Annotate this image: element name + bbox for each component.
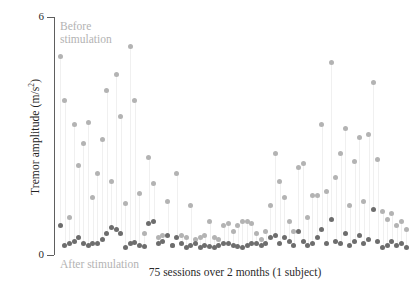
stem-connector	[378, 160, 379, 241]
stem-connector	[60, 57, 61, 226]
data-point-before	[277, 179, 282, 184]
data-point-before	[109, 179, 114, 184]
data-point-before	[76, 163, 81, 168]
data-point-before	[95, 171, 100, 176]
data-point-after	[366, 237, 371, 242]
data-point-before	[361, 199, 366, 204]
stem-connector	[312, 196, 313, 244]
data-point-after	[277, 241, 282, 246]
y-tick-mark-bottom	[47, 255, 54, 256]
stem-connector	[102, 140, 103, 239]
y-tick-label-6: 6	[26, 10, 44, 22]
data-point-before	[366, 132, 371, 137]
data-point-after	[118, 231, 123, 236]
data-point-before	[329, 60, 334, 65]
data-point-before	[287, 219, 292, 224]
data-point-after	[291, 243, 296, 248]
data-point-before	[305, 215, 310, 220]
stem-connector	[79, 166, 80, 237]
stem-connector	[308, 217, 309, 245]
data-point-before	[333, 175, 338, 180]
stem-connector	[317, 196, 318, 238]
data-point-before	[104, 88, 109, 93]
data-point-before	[380, 209, 385, 214]
data-point-before	[273, 151, 278, 156]
stem-connector	[93, 197, 94, 243]
data-point-before	[282, 195, 287, 200]
stem-connector	[139, 194, 140, 246]
data-point-after	[58, 223, 63, 228]
data-point-after	[319, 227, 324, 232]
data-point-after	[338, 241, 343, 246]
data-point-before	[67, 215, 72, 220]
data-point-before	[146, 155, 151, 160]
stem-connector	[154, 184, 155, 222]
stem-connector	[168, 201, 169, 235]
y-axis-title: Tremor amplitude (m/s2)	[27, 37, 41, 237]
data-point-before	[142, 231, 147, 236]
data-point-before	[268, 203, 273, 208]
data-point-after	[179, 241, 184, 246]
data-point-after	[72, 239, 77, 244]
data-point-after	[347, 243, 352, 248]
stem-connector	[284, 197, 285, 237]
data-point-before	[151, 181, 156, 186]
data-point-before	[165, 199, 170, 204]
data-point-before	[62, 98, 67, 103]
data-point-before	[137, 191, 142, 196]
data-point-after	[399, 241, 404, 246]
data-point-before	[352, 159, 357, 164]
data-point-before	[263, 229, 268, 234]
stem-connector	[373, 82, 374, 209]
data-point-before	[357, 135, 362, 140]
data-point-after	[282, 235, 287, 240]
stem-connector	[191, 205, 192, 245]
data-point-before	[394, 223, 399, 228]
stem-connector	[74, 124, 75, 241]
stem-connector	[111, 182, 112, 228]
data-point-before	[114, 72, 119, 77]
stem-connector	[65, 100, 66, 245]
stem-connector	[364, 201, 365, 243]
stem-connector	[359, 138, 360, 235]
data-point-after	[160, 239, 165, 244]
stem-connector	[327, 192, 328, 244]
stem-connector	[275, 154, 276, 235]
data-point-before	[123, 201, 128, 206]
stem-connector	[401, 221, 402, 243]
stem-connector	[88, 122, 89, 245]
stem-connector	[350, 205, 351, 245]
plot-area	[54, 17, 416, 255]
data-point-after	[142, 244, 147, 249]
data-point-after	[404, 245, 409, 250]
stem-connector	[383, 211, 384, 247]
stem-connector	[69, 217, 70, 244]
data-point-after	[371, 207, 376, 212]
stem-connector	[125, 203, 126, 247]
stem-connector	[83, 144, 84, 243]
data-point-before	[128, 44, 133, 49]
data-point-after	[343, 231, 348, 236]
stem-connector	[298, 168, 299, 231]
data-point-before	[347, 203, 352, 208]
data-point-before	[235, 223, 240, 228]
stem-connector	[387, 219, 388, 245]
data-point-before	[404, 227, 409, 232]
stem-connector	[322, 124, 323, 229]
data-point-after	[324, 241, 329, 246]
data-point-before	[375, 157, 380, 162]
data-point-after	[193, 241, 198, 246]
stem-connector	[270, 205, 271, 237]
data-point-before	[86, 120, 91, 125]
data-point-before	[207, 219, 212, 224]
stem-connector	[392, 213, 393, 241]
data-point-before	[371, 80, 376, 85]
stem-connector	[107, 90, 108, 233]
stem-connector	[97, 174, 98, 243]
data-point-after	[273, 233, 278, 238]
data-point-before	[58, 54, 63, 59]
y-axis-title-paren: )	[29, 79, 41, 83]
data-point-after	[170, 243, 175, 248]
data-point-after	[315, 235, 320, 240]
y-tick-label-0: 0	[26, 248, 44, 260]
